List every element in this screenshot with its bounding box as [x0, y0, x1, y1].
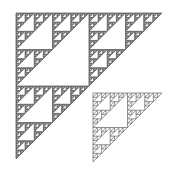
small-sierpinski-triangle	[93, 93, 162, 162]
large-sierpinski-triangle	[16, 13, 162, 159]
sierpinski-fractal-image	[0, 0, 176, 177]
fractal-canvas	[0, 0, 176, 177]
